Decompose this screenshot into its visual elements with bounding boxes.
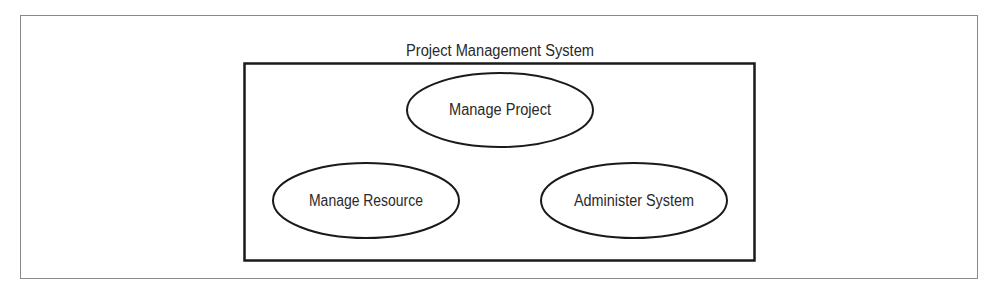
system-boundary-title: Project Management System [406,42,594,59]
use-case-manage-project[interactable]: Manage Project [407,73,593,147]
use-case-diagram: Project Management System Manage Project… [0,0,996,296]
use-case-label: Manage Project [449,101,552,118]
use-case-label: Manage Resource [309,192,423,209]
use-case-administer-system[interactable]: Administer System [541,163,727,238]
use-case-label: Administer System [574,192,694,209]
use-case-manage-resource[interactable]: Manage Resource [273,163,459,238]
